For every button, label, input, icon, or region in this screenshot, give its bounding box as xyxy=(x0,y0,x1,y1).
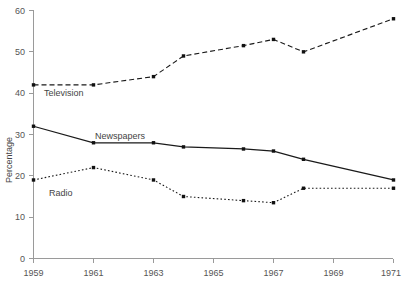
x-tick-label-1963: 1963 xyxy=(143,268,163,278)
data-point-marker xyxy=(152,178,155,181)
series-television xyxy=(32,17,395,87)
series-line-newspapers xyxy=(34,126,394,180)
data-point-marker xyxy=(152,141,155,144)
data-point-marker xyxy=(392,187,395,190)
data-point-marker xyxy=(242,147,245,150)
x-tick-label-1961: 1961 xyxy=(83,268,103,278)
y-tick-label-40: 40 xyxy=(15,88,25,98)
line-chart: 0 10 20 30 40 50 60 Percentage 1959 1961… xyxy=(0,0,405,285)
data-point-marker xyxy=(302,187,305,190)
x-tick-label-1971: 1971 xyxy=(381,268,401,278)
series-line-radio xyxy=(34,168,394,203)
data-point-marker xyxy=(92,166,95,169)
data-point-marker xyxy=(32,178,35,181)
data-point-marker xyxy=(272,149,275,152)
data-point-marker xyxy=(302,158,305,161)
y-tick-label-30: 30 xyxy=(15,130,25,140)
data-point-marker xyxy=(272,38,275,41)
data-point-marker xyxy=(92,141,95,144)
chart-canvas: 0 10 20 30 40 50 60 Percentage 1959 1961… xyxy=(0,0,405,285)
x-tick-label-1959: 1959 xyxy=(23,268,43,278)
series-layer xyxy=(32,17,395,204)
series-label-radio: Radio xyxy=(49,188,73,198)
y-axis-title: Percentage xyxy=(4,137,14,183)
data-point-marker xyxy=(182,54,185,57)
data-point-marker xyxy=(182,145,185,148)
data-point-marker xyxy=(392,17,395,20)
data-point-marker xyxy=(92,83,95,86)
y-tick-label-20: 20 xyxy=(15,171,25,181)
data-point-marker xyxy=(152,75,155,78)
data-point-marker xyxy=(32,125,35,128)
y-tick-label-10: 10 xyxy=(15,212,25,222)
data-point-marker xyxy=(242,199,245,202)
y-tick-label-0: 0 xyxy=(20,254,25,264)
data-point-marker xyxy=(32,83,35,86)
series-label-newspapers: Newspapers xyxy=(95,131,146,141)
series-radio xyxy=(32,166,395,205)
series-label-television: Television xyxy=(44,88,84,98)
data-point-marker xyxy=(182,195,185,198)
y-tick-label-50: 50 xyxy=(15,47,25,57)
x-tick-label-1967: 1967 xyxy=(263,268,283,278)
y-tick-label-60: 60 xyxy=(15,6,25,16)
data-point-marker xyxy=(272,201,275,204)
data-point-marker xyxy=(242,44,245,47)
x-tick-label-1969: 1969 xyxy=(323,268,343,278)
data-point-marker xyxy=(392,178,395,181)
data-point-marker xyxy=(302,50,305,53)
x-tick-label-1965: 1965 xyxy=(203,268,223,278)
series-newspapers xyxy=(32,125,395,182)
series-line-television xyxy=(34,19,394,85)
